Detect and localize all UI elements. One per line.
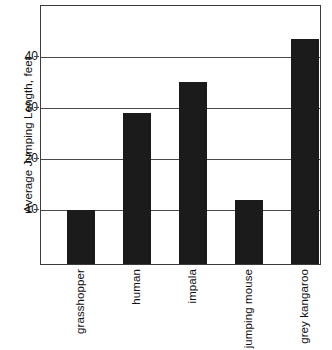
- x-tick-slot: jumping mouse: [234, 265, 262, 350]
- x-tick-slot: grey kangaroo: [290, 265, 318, 350]
- plot-area: [40, 5, 321, 265]
- y-tick-mark: [34, 209, 39, 210]
- bar-series: [41, 6, 320, 264]
- y-tick-mark: [34, 158, 39, 159]
- bar-jumping-mouse[interactable]: [235, 200, 263, 264]
- y-axis-tick-labels: 10 20 30 40: [6, 0, 38, 350]
- bar-impala[interactable]: [179, 82, 207, 264]
- x-axis-tick-labels: grasshopper human impala jumping mouse g…: [40, 265, 321, 350]
- x-tick-label: grasshopper: [74, 269, 86, 334]
- x-tick-label: grey kangaroo: [298, 269, 310, 344]
- y-tick-mark: [34, 56, 39, 57]
- bar-human[interactable]: [123, 113, 151, 264]
- bar-chart-figure: Average Jumping Length, feet 10 20 30 40…: [0, 0, 332, 350]
- y-tick-mark: [34, 107, 39, 108]
- bar-grey-kangaroo[interactable]: [291, 39, 319, 264]
- bar-grasshopper[interactable]: [67, 210, 95, 264]
- x-tick-slot: grasshopper: [66, 265, 94, 350]
- x-tick-label: impala: [186, 269, 198, 303]
- x-tick-slot: human: [122, 265, 150, 350]
- x-tick-label: human: [130, 269, 142, 305]
- x-tick-slot: impala: [178, 265, 206, 350]
- x-tick-label: jumping mouse: [242, 269, 254, 348]
